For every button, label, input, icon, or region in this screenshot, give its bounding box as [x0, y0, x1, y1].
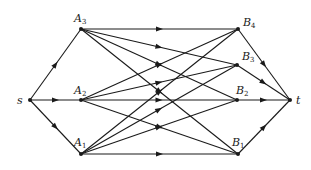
label-t: t [296, 94, 301, 107]
arrowhead-icon [51, 62, 57, 69]
arrowhead-icon [156, 26, 163, 31]
node-A2 [79, 98, 83, 102]
node-s [28, 98, 32, 102]
arrowhead-icon [155, 108, 162, 114]
arrowhead-icon [260, 60, 266, 67]
node-A1 [79, 152, 83, 156]
label-s: s [17, 94, 23, 107]
node-B1 [236, 152, 240, 156]
node-A3 [79, 27, 83, 31]
network-diagram: sA3A2A1B4B3B2B1t [0, 0, 311, 170]
node-t [288, 98, 292, 102]
arrowhead-icon [52, 97, 59, 102]
arrowhead-icon [260, 97, 267, 102]
arrowhead-icon [156, 151, 163, 156]
label-A1: A1 [73, 136, 86, 150]
label-B4: B4 [242, 16, 256, 30]
node-B3 [235, 63, 239, 67]
label-B1: B1 [231, 136, 245, 150]
label-A2: A2 [73, 84, 86, 98]
arrowhead-icon [259, 78, 266, 84]
label-B3: B3 [241, 50, 255, 64]
label-B2: B2 [235, 84, 249, 98]
label-A3: A3 [73, 12, 86, 26]
edges-group [30, 26, 290, 156]
arrowhead-icon [156, 97, 163, 102]
node-B4 [236, 27, 240, 31]
labels-group: sA3A2A1B4B3B2B1t [17, 12, 301, 150]
node-B2 [235, 98, 239, 102]
